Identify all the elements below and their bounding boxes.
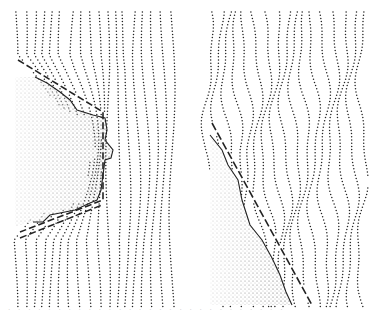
figure-caption-faint: · · · · · · · · · · · · · · · · · · · · … bbox=[8, 306, 370, 316]
left-panel-obstacle bbox=[15, 77, 113, 226]
right-panel-obstacle bbox=[210, 135, 292, 305]
figure bbox=[0, 0, 378, 316]
